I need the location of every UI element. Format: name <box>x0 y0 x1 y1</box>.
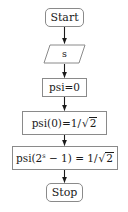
flowchart-diagram: Start s psi=0 psi(0)=1/√2 psi(2s − 1) = … <box>0 0 128 212</box>
sqrt-symbol: √2 <box>98 152 114 164</box>
node-input-s-label: s <box>62 49 67 59</box>
node-psi-final-prefix: psi(2 <box>16 152 42 164</box>
node-psi-final-label: psi(2s − 1) = 1/√2 <box>16 152 114 164</box>
node-start: Start <box>45 8 84 27</box>
node-psi-final-middle: − 1) = 1/ <box>46 152 98 164</box>
node-start-label: Start <box>50 12 78 23</box>
sqrt-radicand: 2 <box>105 152 114 164</box>
sqrt-radicand: 2 <box>89 117 98 129</box>
node-psi-final: psi(2s − 1) = 1/√2 <box>12 146 118 170</box>
sqrt-symbol: √2 <box>81 117 97 129</box>
node-psi-init-label: psi=0 <box>49 82 80 93</box>
node-psi-zero: psi(0)=1/√2 <box>22 111 107 135</box>
node-stop: Stop <box>46 183 83 202</box>
flowchart-connectors <box>0 0 128 212</box>
node-psi-zero-label: psi(0)=1/√2 <box>32 117 98 129</box>
node-psi-zero-prefix: psi(0)=1/ <box>32 117 81 129</box>
node-stop-label: Stop <box>52 187 78 198</box>
node-input-s: s <box>43 44 86 64</box>
node-psi-init: psi=0 <box>42 78 87 97</box>
